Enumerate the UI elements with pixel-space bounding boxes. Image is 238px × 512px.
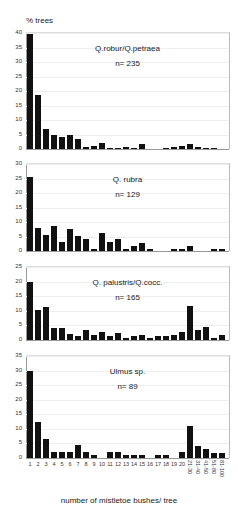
y-tick-label: 25 bbox=[2, 73, 22, 79]
gridline bbox=[26, 400, 229, 401]
y-tick-label: 10 bbox=[2, 116, 22, 122]
gridline bbox=[26, 325, 229, 326]
y-tick-label: 25 bbox=[2, 175, 22, 181]
bar bbox=[155, 336, 161, 340]
bar bbox=[139, 335, 145, 340]
bar bbox=[67, 135, 73, 150]
bar bbox=[35, 310, 41, 340]
bar bbox=[107, 148, 113, 149]
bar bbox=[43, 129, 49, 149]
bar bbox=[203, 148, 209, 149]
bar bbox=[123, 249, 129, 251]
bar bbox=[115, 333, 121, 340]
gridline bbox=[26, 311, 229, 312]
bar bbox=[43, 439, 49, 458]
y-tick-label: 20 bbox=[2, 87, 22, 93]
y-tick-label: 0 bbox=[2, 247, 22, 253]
sample-size-label: n= 129 bbox=[26, 190, 229, 199]
bar bbox=[163, 455, 169, 458]
gridline bbox=[26, 429, 229, 430]
sample-size-label: n= 235 bbox=[26, 59, 229, 68]
bar bbox=[51, 226, 57, 251]
bar bbox=[35, 95, 41, 149]
bar bbox=[179, 332, 185, 340]
bar bbox=[75, 139, 81, 149]
bar bbox=[35, 422, 41, 458]
bar bbox=[147, 338, 153, 340]
bar bbox=[123, 455, 129, 458]
bar bbox=[75, 336, 81, 340]
x-tick-label: 19 bbox=[170, 461, 178, 467]
x-tick-label: 5 bbox=[58, 461, 66, 467]
y-tick-label: 10 bbox=[2, 307, 22, 313]
bar bbox=[51, 135, 57, 150]
gridline bbox=[26, 443, 229, 444]
y-tick-label: 0 bbox=[2, 336, 22, 342]
x-tick-label: 4 bbox=[50, 461, 58, 467]
bar bbox=[203, 327, 209, 340]
bar bbox=[187, 246, 193, 251]
gridline bbox=[26, 208, 229, 209]
bar bbox=[27, 177, 33, 251]
x-tick-label: 13 bbox=[122, 461, 130, 467]
x-tick-label: 21-30 bbox=[187, 460, 193, 474]
x-tick-label: 8 bbox=[82, 461, 90, 467]
bar bbox=[171, 335, 177, 340]
bar bbox=[115, 148, 121, 149]
gridline bbox=[26, 33, 229, 34]
bar bbox=[179, 452, 185, 458]
bar bbox=[211, 338, 217, 340]
bar bbox=[67, 452, 73, 458]
bar bbox=[75, 236, 81, 251]
y-tick-label: 15 bbox=[2, 204, 22, 210]
bar bbox=[51, 452, 57, 458]
bar bbox=[219, 453, 225, 458]
gridline bbox=[26, 91, 229, 92]
bar bbox=[139, 144, 145, 149]
bar bbox=[187, 426, 193, 458]
bar bbox=[83, 330, 89, 340]
y-tick-label: 5 bbox=[2, 321, 22, 327]
x-tick-label: 9 bbox=[90, 461, 98, 467]
sample-size-label: n= 165 bbox=[26, 293, 229, 302]
bar bbox=[139, 243, 145, 251]
bar bbox=[195, 147, 201, 149]
y-tick-label: 0 bbox=[2, 454, 22, 460]
x-tick-label: 15 bbox=[138, 461, 146, 467]
bar bbox=[59, 137, 65, 149]
bar bbox=[91, 335, 97, 340]
bar bbox=[35, 228, 41, 251]
x-axis-line bbox=[26, 340, 229, 341]
bar bbox=[211, 148, 217, 149]
x-tick-label: 81-100 bbox=[219, 460, 225, 477]
y-tick-label: 15 bbox=[2, 292, 22, 298]
gridline bbox=[26, 222, 229, 223]
bar bbox=[131, 336, 137, 340]
y-tick-label: 30 bbox=[2, 58, 22, 64]
panel-title: Q. palustris/Q.cocc. bbox=[26, 278, 229, 287]
x-tick-label: 51-80 bbox=[211, 460, 217, 474]
x-tick-label: 6 bbox=[66, 461, 74, 467]
bar bbox=[67, 229, 73, 251]
bar bbox=[219, 249, 225, 251]
x-tick-label: 12 bbox=[114, 461, 122, 467]
bar bbox=[91, 249, 97, 251]
x-tick-label: 31-40 bbox=[195, 460, 201, 474]
bar bbox=[59, 242, 65, 251]
bar bbox=[195, 330, 201, 340]
x-tick-label: 1 bbox=[26, 461, 34, 467]
bar bbox=[155, 455, 161, 458]
y-tick-label: 30 bbox=[2, 160, 22, 166]
y-tick-label: 10 bbox=[2, 425, 22, 431]
bar bbox=[195, 446, 201, 458]
y-tick-label: 15 bbox=[2, 102, 22, 108]
bar bbox=[123, 338, 129, 340]
x-tick-label: 3 bbox=[42, 461, 50, 467]
bar bbox=[179, 146, 185, 149]
y-tick-label: 20 bbox=[2, 189, 22, 195]
bar bbox=[131, 455, 137, 458]
y-tick-label: 35 bbox=[2, 352, 22, 358]
panel-title: Q. rubra bbox=[26, 175, 229, 184]
bar bbox=[107, 242, 113, 251]
gridline bbox=[26, 77, 229, 78]
